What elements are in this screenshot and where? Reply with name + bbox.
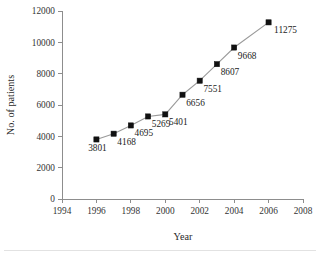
y-tick-label: 10000	[32, 38, 56, 48]
data-point-label: 6656	[186, 98, 205, 108]
data-marker	[180, 92, 185, 97]
data-point-label: 3801	[88, 143, 107, 153]
data-marker	[266, 20, 271, 25]
data-point-label: 5401	[169, 117, 188, 127]
y-tick-label: 2000	[36, 163, 55, 173]
y-axis-title: No. of patients	[5, 75, 16, 135]
data-marker	[232, 45, 237, 50]
data-marker	[111, 131, 116, 136]
y-axis-ticks: 020004000600080001000012000	[32, 6, 62, 204]
x-tick-label: 1994	[53, 206, 72, 216]
chart-figure: 020004000600080001000012000 199419961998…	[0, 0, 320, 253]
x-tick-label: 2000	[156, 206, 175, 216]
x-tick-label: 1996	[87, 206, 106, 216]
data-point-labels: 3801416846955269540166567551860796681127…	[88, 25, 297, 153]
x-tick-label: 1998	[122, 206, 141, 216]
data-marker	[197, 78, 202, 83]
data-point-label: 4168	[117, 137, 136, 147]
data-point-label: 7551	[203, 84, 222, 94]
x-axis-title: Year	[174, 231, 193, 242]
x-tick-label: 2002	[190, 206, 209, 216]
data-marker	[94, 137, 99, 142]
y-tick-label: 12000	[32, 6, 56, 16]
data-marker	[128, 123, 133, 128]
y-tick-label: 4000	[36, 132, 55, 142]
y-tick-label: 6000	[36, 100, 55, 110]
data-point-label: 5269	[152, 119, 171, 129]
data-marker	[214, 62, 219, 67]
data-marker	[145, 114, 150, 119]
x-tick-label: 2008	[294, 206, 313, 216]
data-point-label: 9668	[238, 51, 257, 61]
y-tick-label: 0	[50, 194, 55, 204]
x-axis-ticks: 19941996199820002002200420062008	[53, 199, 313, 216]
y-tick-label: 8000	[36, 69, 55, 79]
data-point-label: 11275	[274, 25, 297, 35]
x-tick-label: 2004	[225, 206, 244, 216]
data-point-label: 8607	[221, 67, 240, 77]
x-tick-label: 2006	[259, 206, 278, 216]
data-point-label: 4695	[135, 128, 154, 138]
scan-artifact-line	[4, 250, 316, 251]
data-marker	[163, 112, 168, 117]
line-chart: 020004000600080001000012000 199419961998…	[0, 0, 320, 253]
